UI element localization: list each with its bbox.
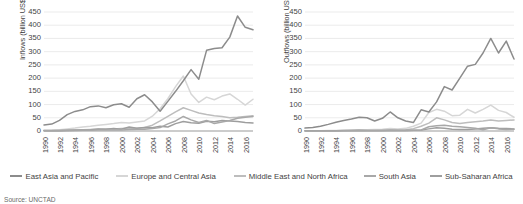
x-tick-label: 2000 (380, 137, 388, 153)
legend-item[interactable]: Europe and Central Asia (116, 172, 216, 181)
y-tick-label: 50 (276, 114, 302, 122)
y-tick-label: 0 (276, 127, 302, 135)
x-tick-label: 2000 (119, 137, 127, 153)
y-tick-label: 200 (276, 74, 302, 82)
x-tick-label: 1992 (318, 137, 326, 153)
y-tick-label: 350 (15, 34, 41, 42)
chart-panel-inflows: Inflows (billion US$) 450400350300250200… (0, 0, 261, 165)
series-lines-outflows (305, 38, 514, 131)
legend-item[interactable]: South Asia (364, 172, 416, 181)
y-tick-label: 250 (15, 61, 41, 69)
legend-label: Sub-Saharan Africa (445, 172, 513, 181)
x-tick-label: 2004 (411, 137, 419, 153)
x-tick-label: 1998 (103, 137, 111, 153)
x-tick-label: 2010 (196, 137, 204, 153)
legend-label: Europe and Central Asia (131, 172, 216, 181)
x-tick-label: 2014 (488, 137, 496, 153)
chart-legend: East Asia and PacificEurope and Central … (0, 168, 523, 184)
legend-swatch-icon (116, 175, 128, 177)
y-tick-label: 100 (15, 101, 41, 109)
figure-two-panel-fdi-chart: Inflows (billion US$) 450400350300250200… (0, 0, 523, 204)
x-tick-label: 1994 (333, 137, 341, 153)
x-tick-label: 2016 (243, 137, 251, 153)
x-tick-label: 1998 (364, 137, 372, 153)
plot-area-outflows (305, 12, 514, 131)
x-tick-label: 1994 (72, 137, 80, 153)
x-tick-label: 2010 (457, 137, 465, 153)
legend-item[interactable]: East Asia and Pacific (10, 172, 98, 181)
legend-swatch-icon (364, 175, 376, 177)
y-tick-label: 150 (15, 87, 41, 95)
x-tick-label: 1990 (303, 137, 311, 153)
plot-svg-inflows (44, 12, 253, 131)
legend-label: South Asia (379, 172, 416, 181)
y-tick-label: 450 (276, 8, 302, 16)
x-tick-label: 2008 (181, 137, 189, 153)
y-tick-label: 250 (276, 61, 302, 69)
legend-label: East Asia and Pacific (25, 172, 98, 181)
x-tick-label: 1996 (349, 137, 357, 153)
legend-item[interactable]: Middle East and North Africa (234, 172, 348, 181)
legend-item[interactable]: Sub-Saharan Africa (430, 172, 513, 181)
y-tick-label: 0 (15, 127, 41, 135)
x-tick-label: 2014 (227, 137, 235, 153)
legend-swatch-icon (10, 175, 22, 177)
y-tick-label: 150 (276, 87, 302, 95)
y-tick-label: 350 (276, 34, 302, 42)
source-caption: Source: UNCTAD (4, 196, 56, 204)
x-tick-label: 2008 (442, 137, 450, 153)
y-tick-label: 300 (15, 48, 41, 56)
plot-svg-outflows (305, 12, 514, 131)
gridlines-inflows (44, 12, 253, 131)
y-tick-label: 50 (15, 114, 41, 122)
x-tick-label: 2004 (150, 137, 158, 153)
plot-area-inflows (44, 12, 253, 131)
x-tick-label: 1996 (88, 137, 96, 153)
x-tick-label: 2002 (134, 137, 142, 153)
x-tick-label: 2002 (395, 137, 403, 153)
gridlines-outflows (305, 12, 514, 131)
chart-panel-outflows: Outflows (billion US$) 45040035030025020… (261, 0, 522, 165)
x-tick-label: 2016 (504, 137, 512, 153)
x-tick-label: 1992 (57, 137, 65, 153)
legend-swatch-icon (234, 175, 246, 177)
x-tick-label: 1990 (42, 137, 50, 153)
series-lines-inflows (44, 16, 253, 131)
y-tick-label: 450 (15, 8, 41, 16)
y-tick-label: 200 (15, 74, 41, 82)
y-tick-label: 100 (276, 101, 302, 109)
series-line (44, 16, 253, 125)
legend-label: Middle East and North Africa (249, 172, 348, 181)
y-tick-label: 300 (276, 48, 302, 56)
x-tick-label: 2006 (165, 137, 173, 153)
y-tick-label: 400 (276, 21, 302, 29)
x-tick-label: 2006 (426, 137, 434, 153)
x-tick-label: 2012 (473, 137, 481, 153)
legend-swatch-icon (430, 175, 442, 177)
y-tick-label: 400 (15, 21, 41, 29)
x-tick-label: 2012 (212, 137, 220, 153)
